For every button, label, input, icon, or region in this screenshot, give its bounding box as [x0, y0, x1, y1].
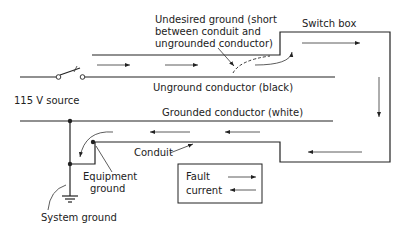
equipment-ground-label-2: ground	[90, 183, 125, 194]
grounded-conductor-label: Grounded conductor (white)	[162, 107, 303, 118]
conduit-label: Conduit	[134, 147, 173, 158]
equipment-ground-label-1: Equipment	[83, 171, 137, 182]
source-label: 115 V source	[14, 95, 80, 106]
junction-dot	[68, 162, 72, 166]
system-ground	[62, 119, 78, 202]
switch-box-label: Switch box	[302, 18, 356, 29]
fault-current-arrows	[80, 43, 379, 157]
switch-blade	[60, 68, 80, 75]
legend-label-line1: Fault	[186, 171, 210, 182]
switch-contact-left	[56, 75, 61, 80]
switch-contact-right	[80, 75, 85, 80]
legend-label-line2: current	[186, 185, 222, 196]
junction-dot	[68, 119, 72, 123]
equipment-ground-dot	[91, 140, 95, 144]
system-ground-label: System ground	[41, 212, 117, 223]
conduit-outline	[72, 32, 390, 164]
ungrounded-conductor	[20, 66, 335, 79]
undesired-ground-label-2: between conduit and	[155, 26, 261, 37]
undesired-ground-label-3: ungrounded conductor)	[155, 38, 273, 49]
fault-current-diagram: Fault current 115 V source Undesired gro…	[0, 0, 410, 233]
ungrounded-conductor-label: Unground conductor (black)	[153, 82, 293, 93]
undesired-ground-label-1: Undesired ground (short	[155, 14, 277, 25]
legend: Fault current	[178, 164, 262, 203]
